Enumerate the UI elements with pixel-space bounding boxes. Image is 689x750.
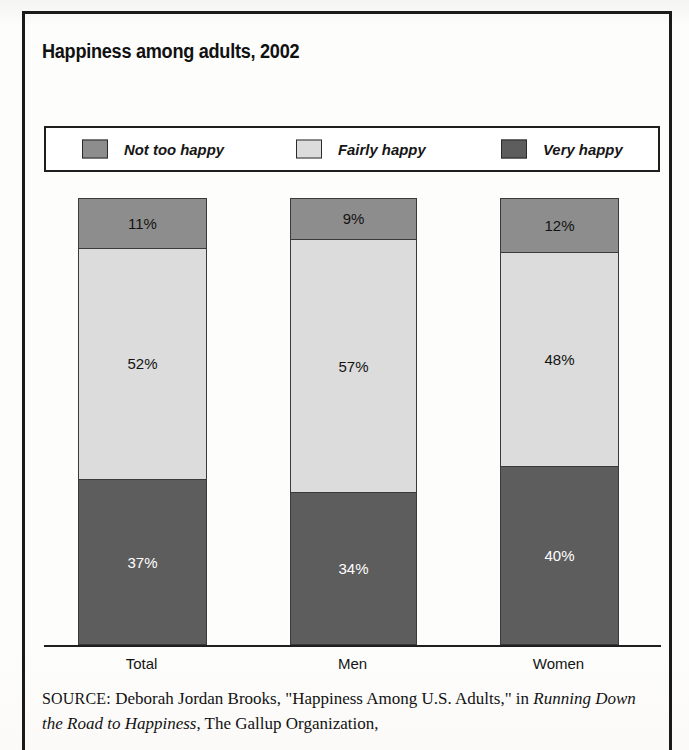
legend-label-fairly-happy: Fairly happy	[338, 140, 426, 158]
chart-legend: Not too happy Fairly happy Very happy	[44, 126, 660, 172]
source-kicker: SOURCE:	[42, 690, 111, 707]
figure-frame	[22, 11, 672, 750]
legend-label-very-happy: Very happy	[543, 140, 623, 158]
source-note: SOURCE: Deborah Jordan Brooks, "Happines…	[42, 686, 652, 736]
legend-swatch-not-too-happy	[82, 140, 108, 159]
page-title: Happiness among adults, 2002	[42, 40, 299, 63]
source-text-line1: Deborah Jordan Brooks, "Happiness Among …	[111, 689, 533, 708]
source-text-line2: , The Gallup Organization,	[196, 714, 378, 733]
legend-item-fairly-happy[interactable]: Fairly happy	[296, 140, 429, 159]
legend-item-not-too-happy[interactable]: Not too happy	[82, 140, 228, 159]
legend-item-very-happy[interactable]: Very happy	[501, 140, 626, 159]
legend-label-not-too-happy: Not too happy	[124, 140, 224, 158]
legend-swatch-very-happy	[501, 140, 527, 159]
legend-swatch-fairly-happy	[296, 140, 322, 159]
